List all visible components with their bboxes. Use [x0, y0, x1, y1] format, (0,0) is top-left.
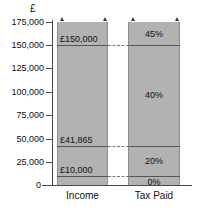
clipped-footnote	[44, 209, 194, 215]
plot-area: £ 175,000 150,000 125,000 100,000 75,000…	[0, 0, 199, 216]
tax-divider-41865	[128, 146, 180, 147]
income-bar-arrow-left	[60, 17, 64, 21]
income-label-41865: £41,865	[60, 135, 93, 145]
income-label-10000: £10,000	[60, 165, 93, 175]
y-axis-line	[52, 20, 53, 186]
tax-band-label-40: 40%	[128, 90, 180, 100]
y-tick-mark-75000	[46, 115, 52, 116]
y-tick-label-175000: 175,000	[0, 18, 44, 27]
y-tick-mark-25000	[46, 162, 52, 163]
category-label-tax-paid: Tax Paid	[126, 190, 182, 201]
y-tick-mark-175000	[46, 22, 52, 23]
income-label-150000: £150,000	[60, 34, 98, 44]
tax-band-label-20: 20%	[128, 156, 180, 166]
y-tick-label-75000: 75,000	[0, 111, 44, 120]
connector-150000	[108, 45, 129, 46]
y-tick-label-150000: 150,000	[0, 41, 44, 50]
y-tick-mark-125000	[46, 68, 52, 69]
tax-band-label-45: 45%	[128, 29, 180, 39]
tax-band-label-0: 0%	[128, 177, 180, 187]
income-bar-arrow-right	[103, 17, 107, 21]
y-tick-mark-50000	[46, 139, 52, 140]
income-divider-41865	[57, 146, 108, 147]
y-tick-label-0: 0	[36, 180, 41, 190]
category-label-income: Income	[57, 190, 108, 201]
tax-divider-150000	[128, 45, 180, 46]
income-tax-bar-chart: £ 175,000 150,000 125,000 100,000 75,000…	[0, 0, 199, 216]
tax-bar-arrow-right	[175, 17, 179, 21]
y-tick-label-100000: 100,000	[0, 88, 44, 97]
y-tick-label-125000: 125,000	[0, 64, 44, 73]
connector-41865	[108, 146, 129, 147]
y-tick-mark-100000	[46, 92, 52, 93]
y-axis-unit-label: £	[30, 3, 36, 14]
y-tick-label-50000: 50,000	[0, 135, 44, 144]
tax-bar-arrow-left	[131, 17, 135, 21]
bar-income[interactable]	[57, 22, 108, 185]
connector-10000	[108, 176, 129, 177]
income-divider-10000	[57, 176, 108, 177]
y-tick-label-25000: 25,000	[0, 158, 44, 167]
income-divider-150000	[57, 45, 108, 46]
y-tick-mark-150000	[46, 45, 52, 46]
